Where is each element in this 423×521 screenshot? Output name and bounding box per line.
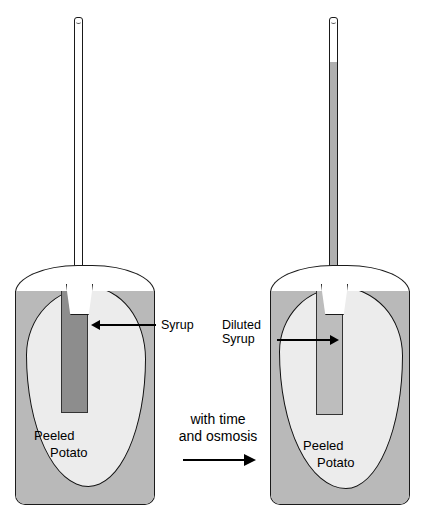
beaker-right: Peeled Potato xyxy=(270,291,410,505)
osmometer-after: Peeled Potato xyxy=(255,0,423,521)
potato-label-left-line2: Potato xyxy=(50,446,88,460)
tube-opening-right xyxy=(331,20,336,24)
osmometer-before: Peeled Potato Syrup xyxy=(0,0,200,521)
diluted-syrup-callout-line xyxy=(277,339,331,341)
syrup-callout-line-left xyxy=(100,324,156,326)
potato-label-left-line1: Peeled xyxy=(34,429,74,443)
capillary-tube-left xyxy=(74,17,83,287)
rubber-stopper-right xyxy=(321,284,348,315)
transition-caption-line2: and osmosis xyxy=(172,428,264,445)
tube-opening-left xyxy=(76,20,81,24)
syrup-callout-arrowhead-left xyxy=(91,320,100,330)
tube-liquid-right xyxy=(330,62,337,286)
rubber-stopper-left xyxy=(66,284,93,315)
potato-label-right-line1: Peeled xyxy=(303,439,343,453)
diluted-syrup-callout-label-line2: Syrup xyxy=(222,332,255,346)
diagram-canvas: Peeled Potato Syrup with time and osmosi… xyxy=(0,0,423,521)
potato-label-right-line2: Potato xyxy=(317,456,355,470)
transition-arrow-line xyxy=(183,459,245,461)
syrup-callout-label-left: Syrup xyxy=(161,318,194,332)
capillary-tube-right xyxy=(329,17,338,287)
transition-caption-line1: with time xyxy=(178,411,258,428)
diluted-syrup-callout-label-line1: Diluted xyxy=(222,318,261,332)
diluted-syrup-callout-arrowhead xyxy=(330,335,339,345)
